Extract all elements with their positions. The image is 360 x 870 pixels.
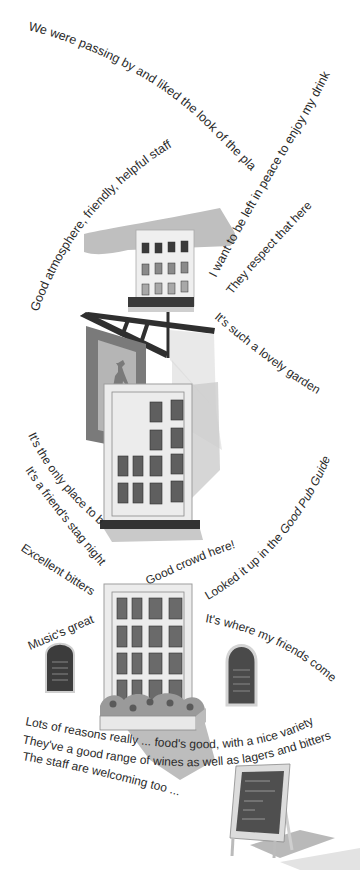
planter: [100, 716, 196, 730]
chalkboard-surface: [236, 771, 284, 834]
pub-illustration: We were passing by and liked the look of…: [0, 0, 360, 870]
quote-garden: It's such a lovely garden: [212, 310, 323, 397]
top-building: [84, 208, 236, 312]
side-shadow: [190, 382, 220, 500]
sill-shadow: [104, 529, 203, 542]
quote-friends-come: It's where my friends come: [204, 611, 339, 685]
right-wall-plaque: [227, 646, 256, 706]
middle-building: [100, 382, 220, 542]
facade-base-band: [128, 297, 194, 307]
left-wall-plaque: [46, 644, 74, 692]
quote-pub-guide: Looked it up in the Good Pub Guide: [202, 453, 333, 602]
a-frame-chalkboard: [230, 764, 360, 870]
window-sill: [100, 520, 200, 529]
quote-passing-by: We were passing by and liked the look of…: [0, 0, 259, 173]
flower-box: [100, 693, 206, 730]
quote-respect: They respect that here: [223, 198, 315, 297]
facade-base-shadow: [128, 307, 194, 312]
